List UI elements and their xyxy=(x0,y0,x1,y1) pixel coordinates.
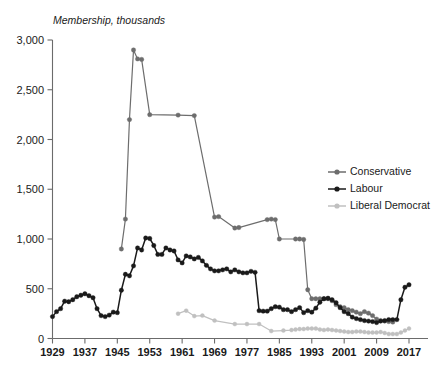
data-point-marker xyxy=(370,313,374,317)
data-point-marker xyxy=(281,329,285,333)
chart-legend: ConservativeLabourLiberal Democrat xyxy=(328,165,430,211)
data-point-marker xyxy=(127,117,131,121)
data-point-marker xyxy=(314,327,318,331)
legend-label: Conservative xyxy=(350,165,411,177)
data-point-marker xyxy=(91,296,95,300)
data-point-marker xyxy=(269,306,273,310)
data-point-marker xyxy=(362,330,366,334)
data-point-marker xyxy=(216,269,220,273)
data-point-marker xyxy=(403,329,407,333)
y-tick-label: 1,500 xyxy=(16,183,44,195)
data-point-marker xyxy=(176,312,180,316)
data-point-marker xyxy=(83,292,87,296)
data-point-marker xyxy=(383,331,387,335)
data-point-marker xyxy=(306,308,310,312)
y-tick-label: 500 xyxy=(26,283,44,295)
data-point-marker xyxy=(233,268,237,272)
data-point-marker xyxy=(58,306,62,310)
data-point-marker xyxy=(354,330,358,334)
data-point-marker xyxy=(119,288,123,292)
data-point-marker xyxy=(156,252,160,256)
data-point-marker xyxy=(87,294,91,298)
data-point-marker xyxy=(374,320,378,324)
data-point-marker xyxy=(378,319,382,323)
data-point-marker xyxy=(241,271,245,275)
data-point-marker xyxy=(176,113,180,117)
data-point-marker xyxy=(366,319,370,323)
data-point-marker xyxy=(301,237,305,241)
data-point-marker xyxy=(391,317,395,321)
data-point-marker xyxy=(391,332,395,336)
data-point-marker xyxy=(95,306,99,310)
x-tick-label: 1969 xyxy=(202,346,226,358)
data-point-marker xyxy=(370,319,374,323)
data-point-marker xyxy=(322,328,326,332)
data-point-marker xyxy=(265,217,269,221)
data-point-marker xyxy=(115,310,119,314)
data-point-marker xyxy=(314,306,318,310)
data-point-marker xyxy=(362,318,366,322)
data-point-marker xyxy=(180,261,184,265)
data-point-marker xyxy=(249,269,253,273)
data-point-marker xyxy=(310,327,314,331)
data-point-marker xyxy=(342,330,346,334)
data-point-marker xyxy=(350,308,354,312)
data-point-marker xyxy=(294,328,298,332)
x-tick-label: 1937 xyxy=(73,346,97,358)
data-point-marker xyxy=(277,237,281,241)
data-point-marker xyxy=(54,309,58,313)
data-point-marker xyxy=(119,247,123,251)
data-point-marker xyxy=(269,329,273,333)
data-point-marker xyxy=(172,249,176,253)
data-point-marker xyxy=(176,258,180,262)
data-point-marker xyxy=(346,311,350,315)
data-point-marker xyxy=(168,248,172,252)
data-point-marker xyxy=(395,332,399,336)
data-point-marker xyxy=(342,309,346,313)
data-point-marker xyxy=(362,309,366,313)
data-point-marker xyxy=(310,297,314,301)
data-point-marker xyxy=(358,311,362,315)
data-point-marker xyxy=(334,329,338,333)
data-point-marker xyxy=(237,270,241,274)
data-point-marker xyxy=(192,314,196,318)
data-point-marker xyxy=(184,309,188,313)
data-point-marker xyxy=(75,295,79,299)
data-point-marker xyxy=(265,309,269,313)
data-point-marker xyxy=(204,263,208,267)
data-point-marker xyxy=(245,271,249,275)
data-point-marker xyxy=(200,314,204,318)
data-point-marker xyxy=(164,246,168,250)
data-point-marker xyxy=(192,113,196,117)
data-point-marker xyxy=(346,307,350,311)
data-point-marker xyxy=(212,269,216,273)
data-point-marker xyxy=(285,307,289,311)
x-tick-label: 2017 xyxy=(397,346,421,358)
x-tick-label: 1953 xyxy=(137,346,161,358)
data-point-marker xyxy=(322,297,326,301)
data-point-marker xyxy=(257,308,261,312)
legend-swatch-marker xyxy=(334,203,339,208)
data-point-marker xyxy=(127,274,131,278)
data-point-marker xyxy=(50,314,54,318)
data-point-marker xyxy=(407,327,411,331)
data-point-marker xyxy=(387,332,391,336)
legend-label: Liberal Democrat xyxy=(350,199,430,211)
data-point-marker xyxy=(192,257,196,261)
data-point-marker xyxy=(395,317,399,321)
data-point-marker xyxy=(281,307,285,311)
data-point-marker xyxy=(273,217,277,221)
x-tick-label: 1945 xyxy=(105,346,129,358)
data-point-marker xyxy=(306,288,310,292)
data-point-marker xyxy=(289,309,293,313)
data-point-marker xyxy=(79,293,83,297)
data-point-marker xyxy=(379,330,383,334)
y-tick-label: 2,500 xyxy=(16,84,44,96)
data-point-marker xyxy=(225,267,229,271)
x-axis-ticks: 1929193719451953196119691977198519932001… xyxy=(40,339,421,359)
data-point-marker xyxy=(143,236,147,240)
data-point-marker xyxy=(407,283,411,287)
y-axis-title: Membership, thousands xyxy=(53,14,166,26)
data-point-marker xyxy=(212,215,216,219)
data-point-marker xyxy=(200,259,204,263)
